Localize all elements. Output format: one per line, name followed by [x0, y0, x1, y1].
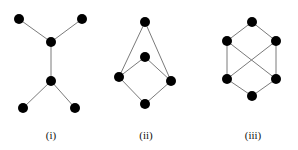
graph-node	[166, 76, 176, 86]
graph-node	[18, 103, 28, 113]
graph-node	[46, 37, 56, 47]
graph-node	[77, 14, 87, 24]
graph-node	[247, 17, 257, 27]
graph-iii	[222, 17, 281, 101]
graph-edge	[51, 19, 82, 42]
graph-edge	[145, 22, 171, 81]
graph-node	[222, 36, 232, 46]
graph-node	[247, 91, 257, 101]
graph-edge	[145, 57, 171, 81]
graph-ii	[114, 17, 176, 109]
graph-edge	[19, 19, 51, 42]
graph-node	[271, 36, 281, 46]
graph-label-iii: (iii)	[233, 129, 273, 141]
graph-diagrams-canvas	[0, 0, 298, 150]
graph-node	[70, 103, 80, 113]
graph-edge	[145, 81, 171, 104]
graph-node	[271, 74, 281, 84]
graph-label-i: (i)	[31, 129, 71, 141]
graph-node	[140, 17, 150, 27]
graph-node	[140, 99, 150, 109]
graph-node	[140, 52, 150, 62]
graph-edge	[119, 77, 145, 104]
graph-node	[114, 72, 124, 82]
graph-edge	[119, 22, 145, 77]
graph-edge	[51, 81, 75, 108]
graph-edge	[23, 81, 51, 108]
graph-node	[14, 14, 24, 24]
graph-node	[222, 74, 232, 84]
graph-node	[46, 76, 56, 86]
graph-i	[14, 14, 87, 113]
graph-label-ii: (ii)	[126, 129, 166, 141]
